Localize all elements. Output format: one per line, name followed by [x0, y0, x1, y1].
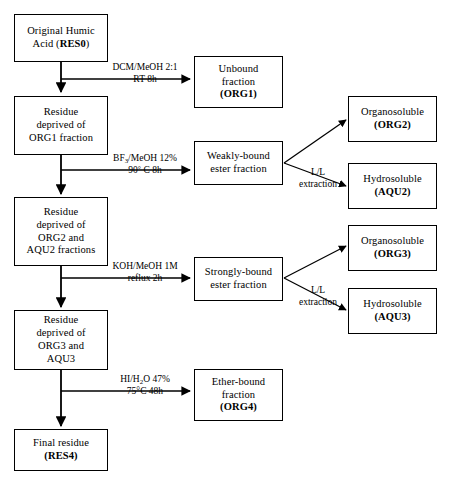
node-line: Original Humic — [27, 25, 95, 38]
node-organosoluble-org2[interactable]: Organosoluble (ORG2) — [348, 96, 437, 142]
edge-label-line: L/L — [287, 285, 349, 297]
edge-label-step3: KOH/MeOH 1M reflux 2h — [90, 261, 200, 284]
node-line: Hydrosoluble — [363, 173, 421, 186]
node-line: Residue — [44, 106, 79, 119]
node-line: deprived of — [36, 327, 85, 340]
connector-strong-org3 — [284, 246, 346, 278]
node-line: Organosoluble — [361, 106, 424, 119]
edge-label-ll-extraction-3: L/L extraction — [287, 285, 349, 308]
node-line: Organosoluble — [361, 235, 424, 248]
node-line: Ether-bound — [212, 376, 265, 389]
node-residue-deprived-org3-aqu3[interactable]: Residue deprived of ORG3 and AQU3 — [14, 310, 108, 370]
edge-label-line: L/L — [287, 167, 349, 179]
edge-label-line: KOH/MeOH 1M — [90, 261, 200, 273]
edge-label-line: BF3/MeOH 12% — [90, 153, 200, 165]
node-line: (AQU2) — [374, 186, 410, 199]
node-line: Acid (RES0) — [33, 38, 90, 51]
edge-label-line: 90° C 8h — [90, 165, 200, 177]
node-residue-deprived-org2-aqu2[interactable]: Residue deprived of ORG2 and AQU2 fracti… — [14, 197, 108, 266]
node-line: ester fraction — [210, 279, 267, 292]
node-line: ORG2 and — [38, 232, 84, 245]
node-line: (AQU3) — [374, 311, 410, 324]
edge-label-line: 75°C 48h — [90, 386, 200, 398]
connector-weak-org2 — [284, 120, 346, 163]
edge-label-line: RT 8h — [90, 74, 200, 86]
node-line: (RES4) — [44, 450, 77, 463]
edge-label-line: DCM/MeOH 2:1 — [90, 62, 200, 74]
node-organosoluble-org3[interactable]: Organosoluble (ORG3) — [348, 225, 437, 271]
node-line: (ORG2) — [374, 119, 411, 132]
edge-label-ll-extraction-2: L/L extraction — [287, 167, 349, 190]
node-line: Strongly-bound — [205, 266, 272, 279]
node-ether-bound-fraction-org4[interactable]: Ether-bound fraction (ORG4) — [194, 369, 283, 421]
node-weakly-bound-ester-fraction[interactable]: Weakly-bound ester fraction — [194, 141, 283, 185]
node-unbound-fraction-org1[interactable]: Unbound fraction (ORG1) — [194, 56, 283, 108]
node-line: ORG1 fraction — [29, 132, 93, 145]
node-line: deprived of — [36, 219, 85, 232]
edge-label-step1: DCM/MeOH 2:1 RT 8h — [90, 62, 200, 85]
node-line: (ORG3) — [374, 248, 411, 261]
edge-label-step2: BF3/MeOH 12% 90° C 8h — [90, 153, 200, 177]
node-line: fraction — [222, 76, 255, 89]
node-line: Residue — [44, 314, 79, 327]
node-line: Final residue — [33, 437, 89, 450]
node-line: Unbound — [219, 63, 259, 76]
node-hydrosoluble-aqu3[interactable]: Hydrosoluble (AQU3) — [348, 288, 437, 334]
node-line: ORG3 and — [38, 340, 84, 353]
edge-label-step4: HI/H2O 47% 75°C 48h — [90, 374, 200, 398]
node-line: Weakly-bound — [207, 150, 270, 163]
node-line: fraction — [222, 389, 255, 402]
node-line: AQU2 fractions — [27, 244, 96, 257]
node-final-residue[interactable]: Final residue (RES4) — [14, 429, 108, 471]
edge-label-line: extraction — [287, 297, 349, 309]
node-line: Residue — [44, 206, 79, 219]
edge-label-line: extraction — [287, 179, 349, 191]
node-line: AQU3 — [47, 353, 75, 366]
node-line: ester fraction — [210, 163, 267, 176]
node-residue-deprived-org1[interactable]: Residue deprived of ORG1 fraction — [14, 96, 108, 155]
node-line: (ORG1) — [220, 88, 257, 101]
node-original-humic-acid[interactable]: Original Humic Acid (RES0) — [14, 14, 108, 62]
node-hydrosoluble-aqu2[interactable]: Hydrosoluble (AQU2) — [348, 163, 437, 209]
node-line: deprived of — [36, 119, 85, 132]
flowchart-canvas: Original Humic Acid (RES0) Residue depri… — [0, 0, 450, 484]
node-strongly-bound-ester-fraction[interactable]: Strongly-bound ester fraction — [194, 257, 283, 301]
edge-label-line: HI/H2O 47% — [90, 374, 200, 386]
node-line: (ORG4) — [220, 401, 257, 414]
edge-label-line: reflux 2h — [90, 273, 200, 285]
node-line: Hydrosoluble — [363, 298, 421, 311]
